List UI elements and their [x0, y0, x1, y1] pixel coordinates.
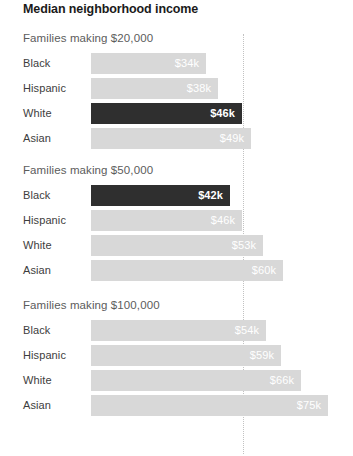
bar-value-label: $60k [252, 260, 276, 281]
bar-row[interactable]: White$66k [0, 370, 353, 395]
bar[interactable]: $59k [91, 345, 281, 366]
bar-row[interactable]: Black$54k [0, 320, 353, 345]
bar[interactable]: $34k [91, 53, 206, 74]
bar-row-category-label: Hispanic [23, 82, 66, 94]
bar-value-label: $34k [175, 53, 199, 74]
bar-row-category-label: Asian [23, 132, 51, 144]
bar-row-category-label: Hispanic [23, 214, 66, 226]
bar[interactable]: $66k [91, 370, 301, 391]
bar-row-category-label: Black [23, 189, 50, 201]
page-title: Median neighborhood income [23, 2, 198, 16]
bar-value-label: $75k [297, 395, 321, 416]
bar-value-label: $46k [210, 103, 235, 124]
bar-value-label: $38k [187, 78, 211, 99]
bar-value-label: $59k [250, 345, 274, 366]
bar-row[interactable]: Hispanic$59k [0, 345, 353, 370]
bar-row[interactable]: Asian$49k [0, 128, 353, 153]
bar-row[interactable]: Black$42k [0, 185, 353, 210]
bar-value-label: $66k [270, 370, 294, 391]
bar-value-label: $46k [211, 210, 235, 231]
bar-rows: Black$42kHispanic$46kWhite$53kAsian$60k [0, 185, 353, 285]
bar-value-label: $54k [235, 320, 259, 341]
bar-row-category-label: Hispanic [23, 349, 66, 361]
bar-row-category-label: Black [23, 57, 50, 69]
bar[interactable]: $60k [91, 260, 283, 281]
bar-row-category-label: White [23, 107, 52, 119]
bar-row[interactable]: Black$34k [0, 53, 353, 78]
bar-row[interactable]: Asian$60k [0, 260, 353, 285]
bar-row[interactable]: Hispanic$46k [0, 210, 353, 235]
bar[interactable]: $38k [91, 78, 218, 99]
bar[interactable]: $53k [91, 235, 263, 256]
bar-row[interactable]: White$53k [0, 235, 353, 260]
bar-row[interactable]: White$46k [0, 103, 353, 128]
bar-group-label: Families making $50,000 [23, 164, 153, 176]
bar-group-label: Families making $20,000 [23, 32, 153, 44]
bar-row-category-label: White [23, 239, 52, 251]
bar-row[interactable]: Hispanic$38k [0, 78, 353, 103]
bar-value-label: $49k [220, 128, 244, 149]
bar[interactable]: $54k [91, 320, 266, 341]
bar-highlighted[interactable]: $46k [91, 103, 242, 124]
bar-row-category-label: White [23, 374, 52, 386]
bar-highlighted[interactable]: $42k [91, 185, 230, 206]
bar[interactable]: $49k [91, 128, 251, 149]
bar[interactable]: $46k [91, 210, 242, 231]
bar-row[interactable]: Asian$75k [0, 395, 353, 420]
bar-value-label: $42k [198, 185, 223, 206]
bar[interactable]: $75k [91, 395, 328, 416]
bar-group-label: Families making $100,000 [23, 299, 160, 311]
bar-value-label: $53k [232, 235, 256, 256]
median-neighborhood-income-chart: Median neighborhood income Families maki… [0, 0, 353, 456]
bar-rows: Black$54kHispanic$59kWhite$66kAsian$75k [0, 320, 353, 420]
bar-row-category-label: Asian [23, 399, 51, 411]
bar-row-category-label: Black [23, 324, 50, 336]
bar-row-category-label: Asian [23, 264, 51, 276]
bar-rows: Black$34kHispanic$38kWhite$46kAsian$49k [0, 53, 353, 153]
chart-plot-area: Families making $20,000Black$34kHispanic… [0, 24, 353, 456]
